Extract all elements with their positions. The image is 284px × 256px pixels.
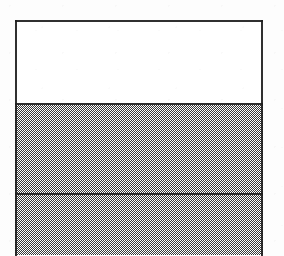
- column-band-3-shaded: [15, 195, 263, 255]
- column-divider-2: [15, 193, 263, 195]
- column-band-1-white: [15, 22, 263, 104]
- column-band-2-shaded: [15, 105, 263, 194]
- column-right-edge: [261, 20, 263, 256]
- column-top-edge: [15, 20, 263, 22]
- column-left-edge: [15, 20, 17, 256]
- column-divider-1: [15, 103, 263, 105]
